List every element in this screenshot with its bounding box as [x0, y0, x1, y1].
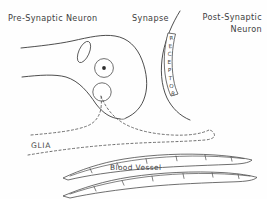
- label-post-synaptic-neuron-line2: Neuron: [231, 24, 263, 34]
- label-post-synaptic-neuron-line1: Post-Synaptic: [203, 12, 262, 22]
- glia-outline-upper-right: [101, 96, 209, 135]
- label-blood-vessel: Blood Vessel: [110, 163, 161, 172]
- label-glia: GLIA: [31, 141, 51, 150]
- label-synapse: Synapse: [132, 13, 169, 23]
- organelle-group: [75, 39, 114, 101]
- label-pre-synaptic-neuron: Pre-Synaptic Neuron: [8, 13, 97, 23]
- receptor-letter-3: E: [168, 59, 172, 65]
- pre-synaptic-bouton-base: [120, 118, 126, 119]
- receptor-letter-7: R: [171, 90, 176, 97]
- nucleolus: [102, 66, 106, 70]
- diagram-canvas: R E C E P T O R: [0, 0, 267, 199]
- receptor-strip-group: R E C E P T O R: [164, 33, 178, 97]
- glia-outline-upper: [31, 96, 101, 135]
- blood-vessel-lower: [63, 172, 257, 198]
- label-group: Pre-Synaptic Neuron Synapse Post-Synapti…: [8, 12, 262, 172]
- blood-vessel-lower-group: [63, 172, 257, 198]
- receptor-letter-2: C: [167, 51, 171, 57]
- mitochondrion: [75, 39, 94, 64]
- glia-outline-lower: [28, 130, 215, 155]
- vacuole: [93, 83, 111, 101]
- synapse-diagram: R E C E P T O R: [0, 0, 267, 199]
- glia-group: [28, 96, 215, 155]
